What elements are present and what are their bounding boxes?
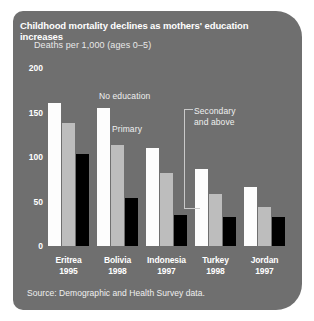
- x-axis-year: 1997: [233, 266, 296, 277]
- bar: [223, 217, 236, 246]
- plot-area: 050100150200 Eritrea1995Bolivia1998Indon…: [13, 11, 302, 310]
- annotation-primary: Primary: [112, 124, 142, 135]
- chart-source: Source: Demographic and Health Survey da…: [27, 288, 205, 298]
- y-axis-tick-label: 50: [13, 197, 43, 207]
- leader-line-horizontal: [184, 208, 200, 209]
- chart-figure: Childhood mortality declines as mothers'…: [0, 0, 314, 321]
- bar: [97, 108, 110, 246]
- y-axis-tick-label: 100: [13, 152, 43, 162]
- x-axis-country-name: Jordan: [233, 255, 296, 266]
- bar: [48, 103, 61, 246]
- bar-group: [146, 11, 187, 246]
- bar: [62, 123, 75, 246]
- bar: [111, 145, 124, 246]
- bar: [258, 207, 271, 246]
- leader-line-vertical: [184, 109, 185, 209]
- bar-group: [48, 11, 89, 246]
- annotation-secondary-and-above: Secondary and above: [194, 106, 236, 127]
- annotation-no-education: No education: [99, 91, 150, 102]
- bar: [209, 194, 222, 246]
- bar: [174, 215, 187, 246]
- leader-line-stub: [184, 109, 193, 110]
- bar: [244, 187, 257, 246]
- y-axis-tick-label: 150: [13, 108, 43, 118]
- bar: [76, 154, 89, 246]
- bar-group: [195, 11, 236, 246]
- bar: [160, 173, 173, 246]
- x-axis-group-label: Jordan1997: [233, 255, 296, 277]
- bar: [146, 148, 159, 246]
- bar: [272, 217, 285, 246]
- y-axis-tick-label: 200: [13, 63, 43, 73]
- bar-group: [244, 11, 285, 246]
- bar: [125, 198, 138, 246]
- y-axis-tick-label: 0: [13, 241, 43, 251]
